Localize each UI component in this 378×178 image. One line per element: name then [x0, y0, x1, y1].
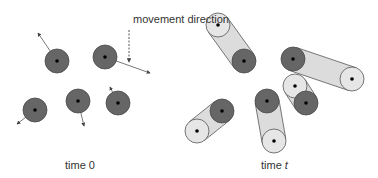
particle-motion-diagram: movement direction time 0 time t: [0, 0, 378, 178]
particle-center-dot: [76, 99, 80, 103]
particle-center-dot: [272, 139, 276, 143]
particle: [38, 33, 69, 73]
swept-particle: [185, 99, 234, 143]
swept-particle: [255, 89, 286, 153]
particle-center-dot: [220, 109, 224, 113]
particle-center-dot: [293, 84, 297, 88]
time-0-label: time 0: [65, 159, 95, 171]
particle-center-dot: [291, 57, 295, 61]
particle-center-dot: [195, 129, 199, 133]
time-t-prefix: time: [261, 159, 285, 171]
time-t-label: time t: [261, 159, 289, 171]
particle: [106, 87, 130, 115]
particle-center-dot: [242, 59, 246, 63]
swept-particle: [283, 74, 318, 115]
particle-center-dot: [265, 99, 269, 103]
time-t-variable: t: [285, 159, 289, 171]
particle-center-dot: [55, 59, 59, 63]
movement-direction-label: movement direction: [133, 13, 229, 25]
particle-center-dot: [304, 101, 308, 105]
panel-time-t: [185, 13, 364, 153]
particle: [17, 98, 47, 124]
particle-center-dot: [33, 108, 37, 112]
particle: [66, 89, 90, 126]
particle-center-dot: [116, 101, 120, 105]
particle-center-dot: [350, 77, 354, 81]
particle-center-dot: [103, 55, 107, 59]
particle: [93, 45, 150, 73]
panel-time-0: [17, 30, 150, 126]
